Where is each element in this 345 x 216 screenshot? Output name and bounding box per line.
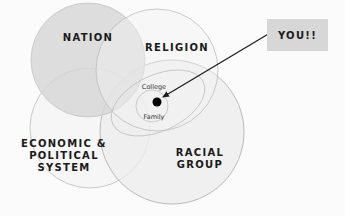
racial-group-label: RACIAL GROUP bbox=[160, 147, 240, 171]
economic-political-label: ECONOMIC & POLITICAL SYSTEM bbox=[14, 138, 114, 174]
family-label: Family bbox=[134, 113, 174, 121]
nation-label: NATION bbox=[50, 32, 126, 44]
college-label: College bbox=[134, 83, 174, 91]
you-label: YOU!! bbox=[278, 30, 317, 41]
religion-label: RELIGION bbox=[137, 42, 217, 54]
you-callout-box: YOU!! bbox=[267, 19, 328, 51]
you-dot bbox=[153, 98, 162, 107]
